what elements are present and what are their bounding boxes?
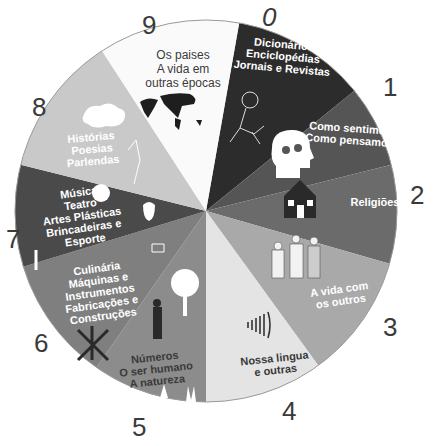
number-7: 7 (6, 224, 20, 255)
number-6: 6 (34, 328, 48, 359)
number-8: 8 (32, 92, 46, 123)
label-sector-8: Histórias Poesias Parlendas (51, 128, 134, 171)
label-sector-2: Religiões (345, 196, 405, 208)
number-0: 0 (262, 2, 276, 33)
number-2: 2 (410, 180, 424, 211)
number-4: 4 (282, 396, 296, 427)
number-5: 5 (132, 412, 146, 443)
number-9: 9 (142, 10, 156, 41)
number-3: 3 (383, 312, 397, 343)
number-1: 1 (383, 72, 397, 103)
label-sector-9: Os paises A vida em outras épocas (128, 48, 238, 90)
